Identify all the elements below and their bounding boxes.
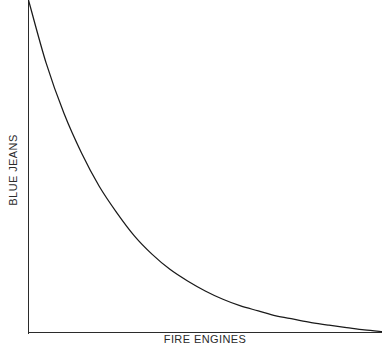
- data-curve-blue-jeans: [29, 0, 383, 332]
- chart-container: BLUE JEANS FIRE ENGINES: [0, 0, 390, 345]
- plot-area: [0, 0, 390, 345]
